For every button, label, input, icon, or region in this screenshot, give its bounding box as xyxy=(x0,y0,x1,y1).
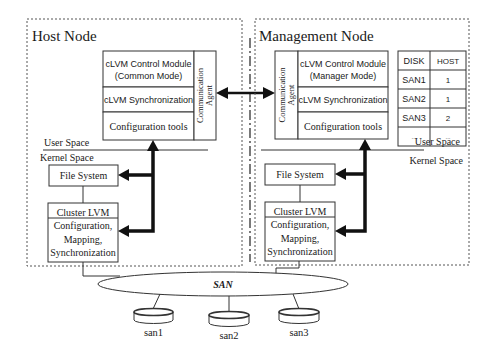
san-label: SAN xyxy=(213,279,233,290)
management-node-title: Management Node xyxy=(259,28,374,44)
host-control-label: cLVM Control Module xyxy=(106,59,192,69)
table-cell: 2 xyxy=(446,114,451,123)
management-cluster-lvm-line3: Synchronization xyxy=(267,246,333,257)
host-cluster-lvm-line2: Mapping, xyxy=(64,234,103,245)
host-sync-label: cLVM Synchronization xyxy=(104,95,193,105)
management-kernel-arrows xyxy=(335,139,371,237)
management-agent-label-2: Agent xyxy=(286,84,296,105)
table-cell: 1 xyxy=(446,95,451,104)
management-control-label: cLVM Control Module xyxy=(300,59,386,69)
host-cluster-lvm-line1: Configuration, xyxy=(54,220,113,231)
management-user-space-label: User Space xyxy=(415,136,461,147)
management-kernel-space-label: Kernel Space xyxy=(409,155,463,166)
management-cluster-lvm-title: Cluster LVM xyxy=(274,206,327,217)
table-header-disk: DISK xyxy=(403,56,424,66)
disk-label: san1 xyxy=(144,327,163,338)
host-node-title: Host Node xyxy=(32,28,97,44)
management-file-system-label: File System xyxy=(276,169,324,180)
disk-san1: san1 xyxy=(134,309,173,339)
table-cell: SAN2 xyxy=(402,94,426,104)
host-user-space-label: User Space xyxy=(44,137,90,148)
management-module-stack: Communication Agent cLVM Control Module … xyxy=(275,51,388,139)
host-config-label: Configuration tools xyxy=(109,121,187,132)
host-control-mode: (Common Mode) xyxy=(115,71,183,81)
host-san-connector xyxy=(83,262,120,276)
disk-label: san2 xyxy=(219,330,238,341)
management-config-label: Configuration tools xyxy=(304,121,382,132)
table-header-host: HOST xyxy=(437,57,459,66)
disk-san3: san3 xyxy=(279,309,319,339)
host-node: Host Node cLVM Control Module (Common Mo… xyxy=(27,19,242,266)
host-control-module xyxy=(103,51,194,87)
management-node: Management Node Communication Agent cLVM… xyxy=(255,19,469,265)
disk-host-table: DISK HOST SAN1 1 SAN2 1 SAN3 2 ... ... xyxy=(398,51,466,146)
table-cell: SAN1 xyxy=(402,75,426,85)
host-file-system-label: File System xyxy=(60,170,108,181)
management-san-connector xyxy=(276,261,299,274)
disk-san2: san2 xyxy=(209,312,249,342)
management-arrow-lvm-icon xyxy=(335,225,346,237)
disk-label: san3 xyxy=(289,327,308,338)
host-arrow-up-icon xyxy=(147,140,159,151)
management-sync-label: cLVM Synchronization xyxy=(299,95,388,105)
san-network: SAN san1 san2 san3 xyxy=(83,261,348,341)
host-kernel-arrows xyxy=(118,140,159,237)
arrow-right-icon xyxy=(263,87,275,99)
host-arrow-fs-icon xyxy=(118,169,129,181)
management-control-mode: (Manager Mode) xyxy=(310,71,377,81)
management-cluster-lvm-line2: Mapping, xyxy=(281,233,320,244)
arrow-left-icon xyxy=(216,87,228,99)
management-control-module xyxy=(298,51,388,87)
management-arrow-up-icon xyxy=(359,139,371,150)
table-cell: SAN3 xyxy=(402,113,426,123)
host-agent-label-2: Agent xyxy=(204,84,214,105)
host-arrow-lvm-icon xyxy=(118,225,129,237)
management-arrow-fs-icon xyxy=(335,168,346,180)
host-module-stack: cLVM Control Module (Common Mode) cLVM S… xyxy=(103,51,216,140)
host-cluster-lvm-line3: Synchronization xyxy=(50,247,116,258)
host-cluster-lvm-title: Cluster LVM xyxy=(57,207,110,218)
host-kernel-space-label: Kernel Space xyxy=(40,152,94,163)
management-cluster-lvm-line1: Configuration, xyxy=(271,219,330,230)
agent-communication-arrow xyxy=(216,87,275,99)
table-cell: 1 xyxy=(446,76,451,85)
architecture-diagram: Host Node cLVM Control Module (Common Mo… xyxy=(0,0,495,358)
